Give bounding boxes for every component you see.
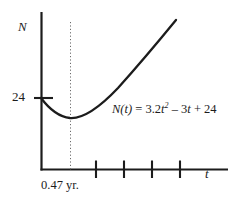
graph-figure: N t 24 0.47 yr. N(t) = 3.2t2 – 3t + 24 bbox=[0, 0, 247, 206]
x-axis-label: t bbox=[205, 167, 209, 180]
equation-lhs: N(t) bbox=[112, 102, 132, 116]
equation-linear-term: – 3 bbox=[169, 102, 188, 116]
y-axis-tick-label-24: 24 bbox=[12, 90, 25, 103]
y-axis-label: N bbox=[18, 20, 27, 33]
equation-annotation: N(t) = 3.2t2 – 3t + 24 bbox=[112, 103, 217, 116]
equation-constant: + 24 bbox=[191, 102, 217, 116]
equation-equals: = bbox=[132, 102, 145, 116]
vertex-value-label: 0.47 yr. bbox=[41, 179, 79, 192]
equation-coefficient: 3.2 bbox=[145, 102, 161, 116]
